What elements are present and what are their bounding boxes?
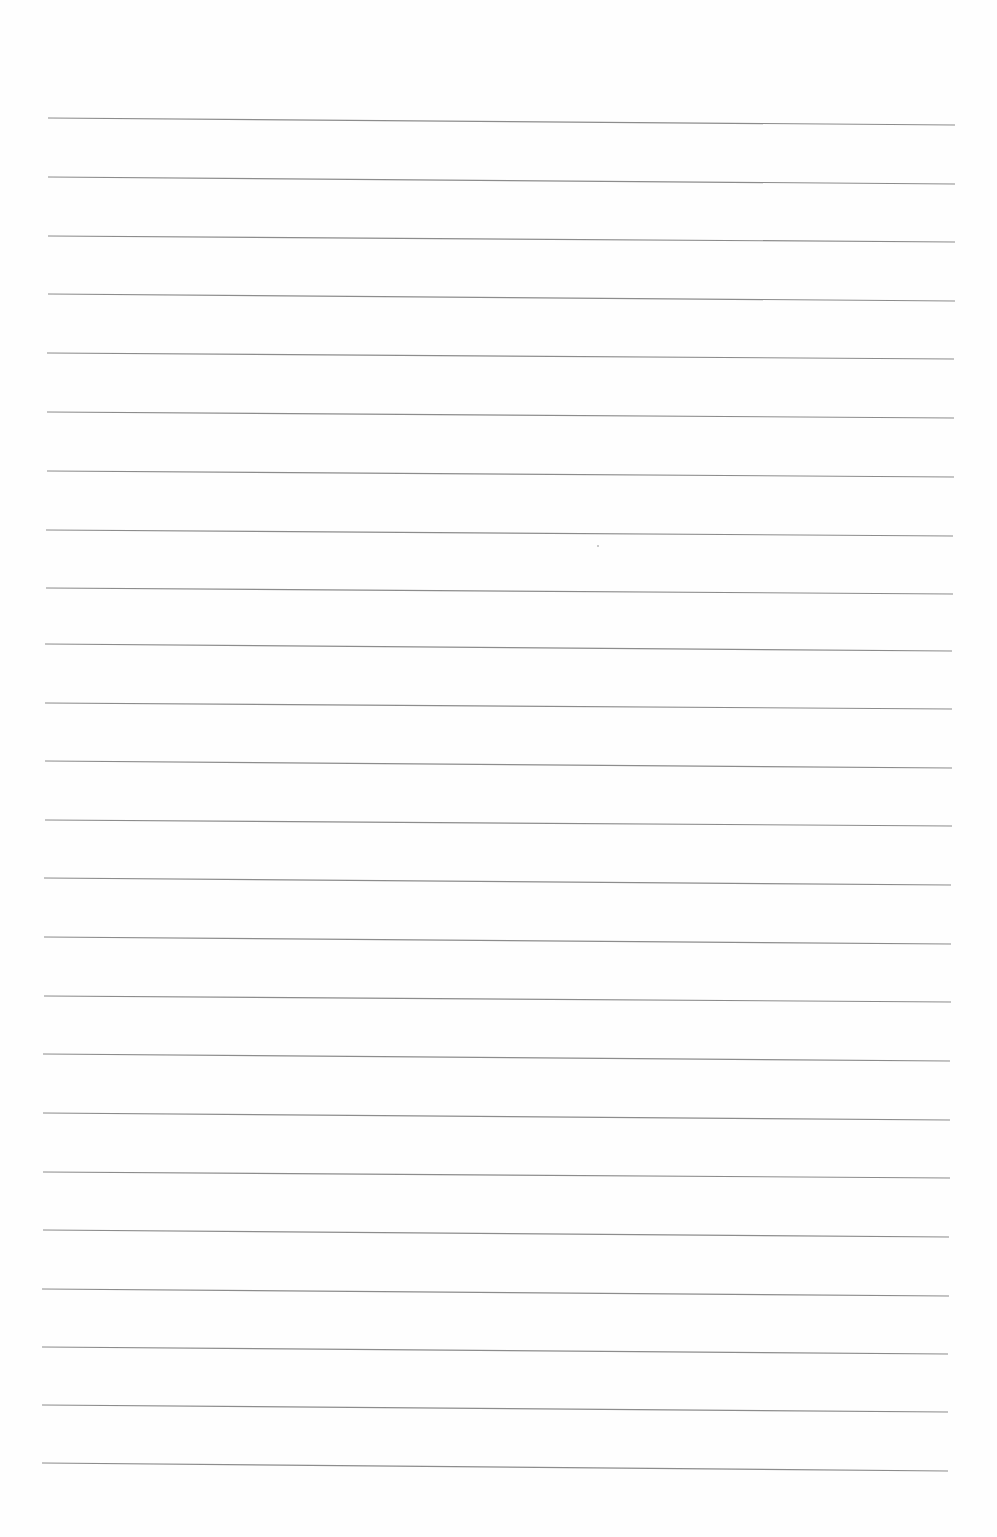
ruled-line — [48, 236, 955, 242]
ruled-line — [44, 937, 951, 944]
ruled-line — [43, 1054, 950, 1061]
ruled-lines — [0, 0, 997, 1537]
ruled-line — [43, 1113, 950, 1120]
ruled-paper-page — [0, 0, 997, 1537]
ruled-line — [48, 118, 955, 125]
ruled-line — [45, 761, 952, 768]
ruled-line — [47, 471, 954, 477]
paper-speck — [597, 545, 599, 547]
ruled-line — [46, 530, 953, 536]
ruled-line — [45, 703, 952, 709]
ruled-line — [42, 1463, 948, 1471]
ruled-line — [42, 1289, 949, 1296]
ruled-line — [47, 353, 954, 359]
ruled-line — [46, 588, 953, 594]
ruled-line — [44, 878, 951, 885]
ruled-line — [43, 1230, 949, 1237]
ruled-line — [47, 412, 954, 418]
ruled-line — [48, 177, 955, 184]
ruled-line — [45, 820, 952, 826]
ruled-line — [44, 996, 951, 1002]
ruled-line — [45, 644, 952, 651]
ruled-line — [48, 294, 955, 301]
ruled-line — [43, 1172, 950, 1178]
ruled-line — [42, 1405, 948, 1412]
ruled-line — [42, 1347, 948, 1354]
